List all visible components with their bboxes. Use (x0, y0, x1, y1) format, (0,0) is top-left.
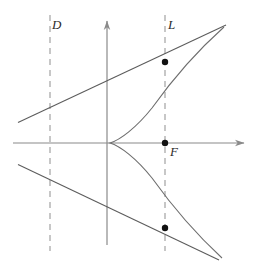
tangent-line-lower (18, 165, 219, 261)
parabola-figure-container: D L F (0, 0, 268, 271)
point-focus (162, 140, 168, 146)
point-upper-latus-endpoint (162, 59, 168, 65)
point-lower-latus-endpoint (162, 225, 168, 231)
focus-label: F (170, 145, 178, 158)
parabola-diagram (0, 0, 268, 271)
directrix-label: D (52, 18, 61, 31)
latus-rectum-label: L (168, 18, 175, 31)
tangent-line-upper (18, 25, 226, 123)
